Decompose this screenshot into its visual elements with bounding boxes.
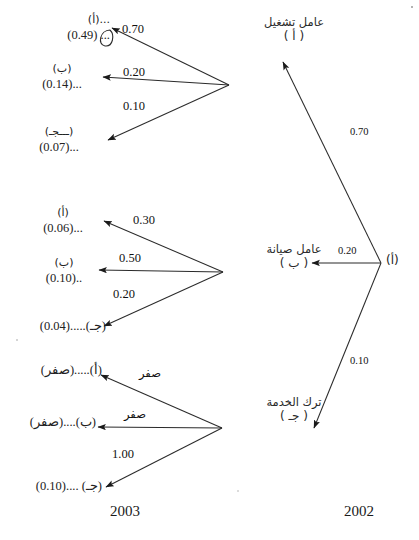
- state-mt-b-line2: (0.10)..: [18, 271, 110, 285]
- scan-speck: [237, 490, 239, 492]
- state-lv-b-line2: (صفر)....(ب): [2, 415, 96, 429]
- state-op-b-line2: (0.14)...: [18, 77, 106, 91]
- edge-lv-b: [98, 427, 222, 428]
- state-mt-c: (0.04).....(جـ): [8, 318, 106, 333]
- state-op-c-line2: (0.07)...: [12, 140, 106, 154]
- weight-op-b: 0.20: [123, 65, 145, 80]
- group-operator-edges: [100, 28, 229, 140]
- state-op-a-line2: (0.49) ...: [18, 28, 110, 42]
- node-leave[interactable]: ترك الخدمة ( جـ ): [246, 396, 342, 424]
- scan-speck: [16, 339, 18, 341]
- state-lv-a-line2: (صفر).....(أ): [6, 363, 102, 377]
- edge-lv-a: [101, 375, 222, 428]
- right-vertex-label: (أ): [386, 253, 399, 267]
- weight-mt-c: 0.20: [113, 287, 135, 302]
- state-lv-a: (صفر).....(أ): [6, 362, 102, 377]
- weight-op-c: 0.10: [123, 99, 145, 114]
- node-operator-code: ( أ ): [246, 30, 342, 44]
- right-weight-leave: 0.10: [350, 355, 368, 366]
- group-maintenance-edges: [99, 221, 223, 326]
- state-lv-c-line2: (0.10).... (جـ): [6, 479, 102, 493]
- right-weight-operator: 0.70: [350, 126, 368, 137]
- right-weight-maintenance: 0.20: [338, 245, 356, 256]
- diagram-root: عامل تشغيل ( أ ) عامل صيانة ( ب ) ترك ال…: [0, 0, 419, 540]
- node-operator[interactable]: عامل تشغيل ( أ ): [246, 16, 342, 44]
- state-mt-a-line2: (0.06)...: [18, 221, 108, 235]
- state-op-a-line1: ...(أ): [18, 14, 110, 27]
- state-lv-c: (0.10).... (جـ): [6, 478, 102, 493]
- weight-lv-a: صفر: [139, 366, 161, 380]
- weight-lv-b: صفر: [124, 407, 146, 421]
- state-op-c: (ـــجـ) (0.07)...: [12, 126, 106, 154]
- state-op-b-line1: (ب): [18, 63, 106, 76]
- weight-mt-a: 0.30: [133, 213, 155, 228]
- node-maintenance[interactable]: عامل صيانة ( ب ): [246, 243, 342, 271]
- right-edge-operator: [283, 62, 381, 263]
- weight-op-a: 0.70: [122, 22, 144, 37]
- state-op-c-line1: (ـــجـ): [12, 126, 106, 139]
- node-leave-name: ترك الخدمة: [266, 395, 321, 409]
- year-left: 2003: [110, 503, 140, 520]
- weight-lv-c: 1.00: [112, 447, 134, 462]
- year-right: 2002: [344, 503, 374, 520]
- edge-op-b: [103, 77, 229, 85]
- state-lv-b: (صفر)....(ب): [2, 414, 96, 429]
- group-leave-edges: [98, 375, 222, 487]
- state-op-a: ...(أ) (0.49) ...: [18, 14, 110, 42]
- scan-speck: [411, 6, 413, 8]
- state-op-b: (ب) (0.14)...: [18, 63, 106, 91]
- node-leave-code: ( جـ ): [246, 410, 342, 424]
- node-operator-name: عامل تشغيل: [264, 15, 324, 29]
- edge-mt-b: [99, 270, 223, 272]
- state-mt-c-line2: (0.04).....(جـ): [8, 319, 106, 333]
- state-mt-a: (أ) (0.06)...: [18, 207, 108, 235]
- state-mt-b-line1: (ب): [18, 257, 110, 270]
- node-maintenance-code: ( ب ): [246, 257, 342, 271]
- state-mt-a-line1: (أ): [18, 207, 108, 220]
- state-mt-b: (ب) (0.10)..: [18, 257, 110, 285]
- weight-mt-b: 0.50: [119, 251, 141, 266]
- node-maintenance-name: عامل صيانة: [267, 242, 322, 256]
